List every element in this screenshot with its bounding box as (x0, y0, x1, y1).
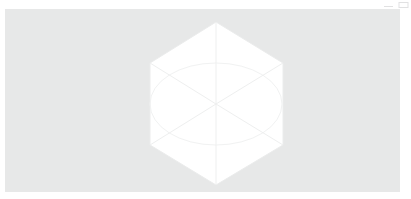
window-toolbar (376, 0, 411, 9)
minimize-icon[interactable] (383, 2, 394, 8)
app-window: 3D Viewport (0, 0, 411, 199)
model-canvas (5, 9, 400, 192)
maximize-icon[interactable] (398, 2, 409, 8)
viewport-3d[interactable]: 3D Viewport (5, 9, 400, 192)
